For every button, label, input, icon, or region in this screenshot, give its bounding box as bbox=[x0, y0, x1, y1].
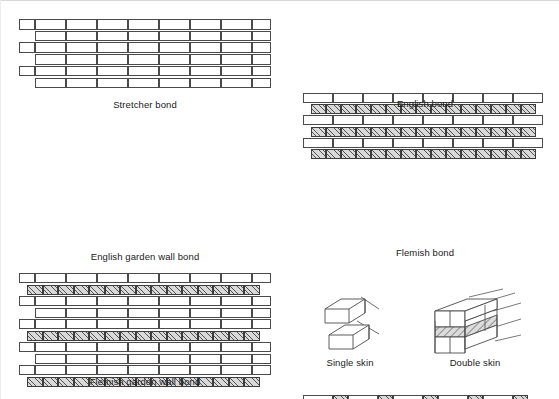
stretcher-brick bbox=[35, 273, 66, 283]
header-brick bbox=[356, 149, 371, 159]
stretcher-brick bbox=[453, 115, 483, 125]
stretcher-brick bbox=[66, 19, 97, 30]
stretcher-brick bbox=[66, 342, 97, 352]
stretcher-brick bbox=[128, 342, 159, 352]
stretcher-brick bbox=[333, 115, 363, 125]
stretcher-brick bbox=[190, 42, 221, 53]
bond-pattern-english-garden-wall-bond bbox=[19, 273, 271, 377]
stretcher-brick bbox=[252, 78, 272, 89]
stretcher-brick bbox=[252, 19, 271, 30]
stretcher-brick bbox=[190, 66, 221, 77]
stretcher-brick bbox=[363, 138, 393, 148]
header-brick bbox=[244, 285, 260, 295]
brick-course bbox=[19, 296, 271, 306]
brick-course bbox=[19, 66, 271, 77]
header-brick bbox=[120, 285, 136, 295]
stretcher-brick bbox=[221, 273, 252, 283]
stretcher-brick bbox=[97, 296, 128, 306]
stretcher-brick bbox=[252, 42, 271, 53]
caption-flemish-bond: Flemish bond bbox=[303, 247, 547, 259]
header-brick bbox=[431, 149, 446, 159]
stretcher-brick bbox=[303, 138, 333, 148]
header-brick bbox=[423, 395, 438, 399]
stretcher-brick bbox=[190, 54, 221, 65]
stretcher-brick bbox=[66, 319, 97, 329]
stretcher-brick bbox=[252, 308, 272, 318]
stretcher-brick bbox=[35, 296, 66, 306]
brick-course bbox=[303, 138, 547, 148]
caption-english-garden-wall-bond: English garden wall bond bbox=[19, 251, 271, 263]
bond-pattern-flemish-bond bbox=[303, 395, 547, 399]
header-brick bbox=[491, 149, 506, 159]
stretcher-brick bbox=[483, 138, 513, 148]
header-brick bbox=[326, 149, 341, 159]
header-brick bbox=[446, 127, 461, 137]
stretcher-brick bbox=[35, 66, 66, 77]
brick-course bbox=[19, 342, 271, 352]
stretcher-brick bbox=[128, 31, 159, 42]
stretcher-brick bbox=[19, 296, 35, 306]
stretcher-brick bbox=[66, 365, 97, 375]
stretcher-brick bbox=[159, 54, 190, 65]
stretcher-brick bbox=[159, 354, 190, 364]
stretcher-brick bbox=[159, 308, 190, 318]
stretcher-brick bbox=[252, 365, 271, 375]
brick-course bbox=[19, 365, 271, 375]
stretcher-brick bbox=[159, 78, 190, 89]
stretcher-brick bbox=[66, 42, 97, 53]
stretcher-brick bbox=[97, 319, 128, 329]
stretcher-brick bbox=[221, 354, 252, 364]
stretcher-brick bbox=[66, 296, 97, 306]
header-brick bbox=[213, 331, 229, 341]
stretcher-brick bbox=[97, 66, 128, 77]
double-skin-svg bbox=[429, 287, 523, 357]
header-brick bbox=[120, 331, 136, 341]
stretcher-brick bbox=[35, 31, 66, 42]
header-brick bbox=[182, 285, 198, 295]
brick-course bbox=[19, 285, 271, 295]
header-brick bbox=[401, 149, 416, 159]
stretcher-brick bbox=[19, 42, 35, 53]
stretcher-brick bbox=[190, 78, 221, 89]
brick-course bbox=[19, 319, 271, 329]
brick-course bbox=[19, 331, 271, 341]
stretcher-brick bbox=[513, 138, 543, 148]
header-brick bbox=[229, 331, 245, 341]
stretcher-brick bbox=[97, 273, 128, 283]
stretcher-brick bbox=[66, 31, 97, 42]
brick-course bbox=[19, 78, 271, 89]
stretcher-brick bbox=[128, 319, 159, 329]
caption-single-skin: Single skin bbox=[307, 357, 393, 369]
stretcher-brick bbox=[128, 354, 159, 364]
stretcher-brick bbox=[221, 66, 252, 77]
stretcher-brick bbox=[35, 308, 66, 318]
stretcher-brick bbox=[66, 78, 97, 89]
header-brick bbox=[371, 149, 386, 159]
stretcher-brick bbox=[128, 66, 159, 77]
header-brick bbox=[461, 127, 476, 137]
header-brick bbox=[371, 127, 386, 137]
stretcher-brick bbox=[190, 296, 221, 306]
stretcher-brick bbox=[66, 54, 97, 65]
stretcher-brick bbox=[159, 42, 190, 53]
stretcher-brick bbox=[97, 19, 128, 30]
stretcher-brick bbox=[35, 354, 66, 364]
header-brick bbox=[401, 127, 416, 137]
stretcher-brick bbox=[221, 19, 252, 30]
stretcher-brick bbox=[35, 19, 66, 30]
header-brick bbox=[58, 285, 74, 295]
stretcher-brick bbox=[19, 365, 35, 375]
stretcher-brick bbox=[453, 138, 483, 148]
stretcher-brick bbox=[35, 78, 66, 89]
header-brick bbox=[89, 285, 105, 295]
header-brick bbox=[513, 395, 528, 399]
stretcher-brick bbox=[159, 365, 190, 375]
stretcher-brick bbox=[252, 319, 271, 329]
header-brick bbox=[311, 149, 326, 159]
stretcher-brick bbox=[252, 273, 271, 283]
header-brick bbox=[151, 331, 167, 341]
stretcher-brick bbox=[97, 42, 128, 53]
stretcher-brick bbox=[221, 54, 252, 65]
header-brick bbox=[506, 149, 521, 159]
stretcher-brick bbox=[252, 66, 271, 77]
